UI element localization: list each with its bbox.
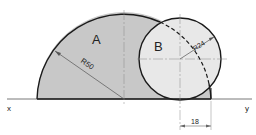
label-axis-y: y bbox=[245, 104, 249, 113]
label-region-a: A bbox=[92, 32, 101, 47]
label-region-b: B bbox=[154, 39, 163, 54]
dimension-arrow-left bbox=[180, 125, 185, 128]
label-axis-x: x bbox=[7, 104, 11, 113]
dimension-arrow-right bbox=[206, 125, 211, 128]
geometry-diagram: A B R50 R24 18 x y bbox=[0, 0, 256, 135]
label-dimension: 18 bbox=[191, 118, 199, 125]
